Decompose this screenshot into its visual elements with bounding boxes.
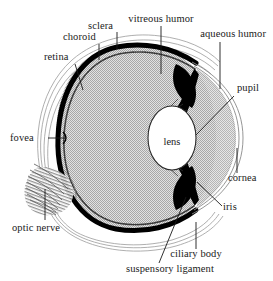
label-retina: retina	[44, 52, 69, 63]
label-ciliary-body: ciliary body	[170, 249, 222, 260]
label-choroid: choroid	[63, 32, 96, 43]
label-iris: iris	[223, 202, 237, 213]
label-optic-nerve: optic nerve	[12, 223, 60, 234]
label-aqueous-humor: aqueous humor	[200, 29, 266, 40]
eye-anatomy-diagram: retina choroid sclera vitreous humor aqu…	[0, 0, 273, 281]
label-cornea: cornea	[228, 173, 257, 184]
label-fovea: fovea	[10, 133, 34, 144]
label-vitreous-humor: vitreous humor	[128, 14, 193, 25]
label-pupil: pupil	[237, 83, 259, 94]
eye-cross-section-illustration	[0, 0, 273, 281]
label-lens: lens	[164, 136, 181, 147]
label-suspensory-ligament: suspensory ligament	[126, 264, 214, 275]
label-sclera: sclera	[88, 21, 113, 32]
